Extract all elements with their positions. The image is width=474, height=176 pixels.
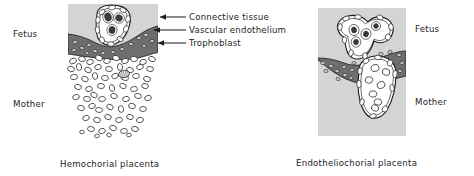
- callout-trophoblast: Trophoblast: [189, 39, 241, 48]
- endotheliochorial-drawing: [318, 8, 406, 136]
- maternal-erythrocytes: [67, 54, 156, 138]
- endotheliochorial-fetus-label: Fetus: [415, 25, 439, 34]
- hemochorial-caption: Hemochorial placenta: [60, 160, 159, 169]
- endotheliochorial-panel: [318, 8, 406, 136]
- placenta-types-figure: Fetus Mother Hemochorial placenta Connec…: [0, 0, 474, 176]
- hemochorial-fetus-label: Fetus: [13, 30, 37, 39]
- hemochorial-callout-leaders: [140, 8, 188, 52]
- endotheliochorial-mother-label: Mother: [415, 98, 447, 107]
- callout-connective-tissue: Connective tissue: [189, 13, 269, 22]
- endotheliochorial-caption: Endotheliochorial placenta: [296, 159, 417, 168]
- hemochorial-mother-label: Mother: [13, 100, 45, 109]
- callout-vascular-endothelium: Vascular endothelium: [189, 26, 286, 35]
